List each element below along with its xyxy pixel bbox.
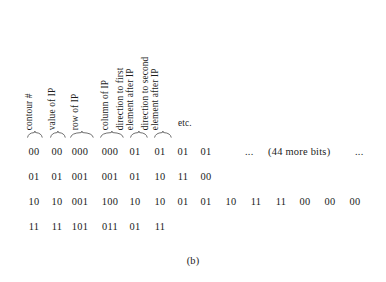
bit-cell: 10 (29, 195, 40, 208)
row-trailing-note: (44 more bits) (268, 145, 330, 158)
brace-column-of-ip-icon (100, 130, 124, 139)
bit-cell: 011 (102, 220, 118, 233)
table-row: 000000000001010101...(44 more bits)... (0, 145, 386, 169)
brace-direction-first-icon (130, 130, 148, 139)
bit-cell: 000 (72, 145, 88, 158)
bit-cell: 01 (130, 220, 141, 233)
column-header-line: row of IP (70, 94, 80, 130)
bit-cell: 01 (130, 145, 141, 158)
bit-cell: 01 (178, 195, 189, 208)
bit-cell: 10 (226, 195, 237, 208)
column-header-contour-number: contour # (24, 93, 34, 130)
bit-cell: 00 (29, 145, 40, 158)
bit-cell: 11 (155, 220, 166, 233)
bit-cell: 01 (201, 145, 212, 158)
bit-cell: 101 (72, 220, 88, 233)
column-header-row-of-ip: row of IP (70, 94, 80, 130)
column-header-line: contour # (24, 93, 34, 130)
bit-cell: 00 (300, 195, 311, 208)
bit-cell: 01 (201, 195, 212, 208)
bit-cell: 11 (52, 220, 63, 233)
column-header-column-of-ip: column of IP (100, 80, 110, 130)
figure-b-bit-encoding-table: contour #value of IProw of IPcolumn of I… (0, 0, 386, 282)
bit-cell: 100 (102, 195, 118, 208)
brace-band (0, 130, 386, 141)
bit-sequence-rows: 000000000001010101...(44 more bits)...01… (0, 141, 386, 243)
table-row: 010100100101101100 (0, 170, 386, 194)
table-row: 11111010110111 (0, 220, 386, 244)
bit-cell: 01 (52, 170, 63, 183)
bit-cell: 11 (178, 170, 189, 183)
bit-cell: 00 (52, 145, 63, 158)
brace-direction-second-icon (154, 130, 172, 139)
bit-cell: 10 (155, 195, 166, 208)
row-trailing-note: ... (355, 145, 364, 158)
column-header-direction-first-element: direction to firstelement after IP (116, 67, 135, 130)
bit-cell: 11 (29, 220, 40, 233)
bit-cell: 01 (29, 170, 40, 183)
bit-cell: 11 (251, 195, 262, 208)
column-header-direction-second-element: direction to secondelement after IP (141, 56, 160, 130)
bit-cell: 001 (72, 195, 88, 208)
bit-cell: 000 (102, 145, 118, 158)
table-row: 101000110010100101101111000000 (0, 195, 386, 219)
bit-cell: 00 (325, 195, 336, 208)
column-header-line: value of IP (47, 88, 57, 130)
column-header-line: element after IP (150, 56, 160, 130)
bit-cell: 10 (155, 170, 166, 183)
bit-cell: 00 (201, 170, 212, 183)
bit-cell: 001 (102, 170, 118, 183)
bit-cell: 001 (72, 170, 88, 183)
bit-cell: 10 (52, 195, 63, 208)
column-header-line: column of IP (100, 80, 110, 130)
bit-cell: 01 (155, 145, 166, 158)
bit-cell: 00 (350, 195, 361, 208)
brace-contour-number-icon (27, 130, 43, 139)
bit-cell: 10 (130, 195, 141, 208)
column-header-line: element after IP (125, 67, 135, 130)
bit-cell: 11 (276, 195, 287, 208)
figure-caption: (b) (0, 255, 386, 266)
brace-row-of-ip-icon (70, 130, 94, 139)
row-trailing-note: ... (245, 145, 254, 158)
column-header-band: contour #value of IProw of IPcolumn of I… (0, 12, 386, 130)
brace-value-of-ip-icon (50, 130, 66, 139)
column-header-value-of-ip: value of IP (47, 88, 57, 130)
bit-cell: 01 (130, 170, 141, 183)
bit-cell: 01 (178, 145, 189, 158)
column-header-etcetera: etc. (178, 118, 192, 128)
